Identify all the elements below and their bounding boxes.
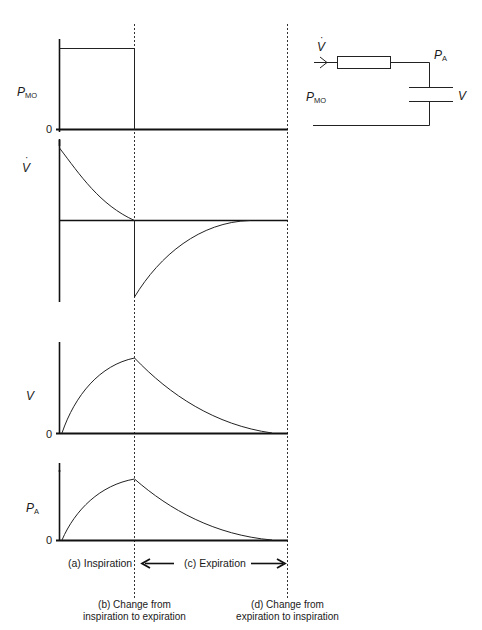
volume-label: V xyxy=(26,389,35,403)
flow-label-dot: · xyxy=(25,152,28,163)
label-b-line1: (b) Change from xyxy=(98,599,171,610)
label-inspiration: (a) Inspiration xyxy=(68,557,132,569)
panel-pmo: PMO 0 xyxy=(17,39,288,146)
flow-expiration-curve xyxy=(135,221,251,298)
respiration-diagram: PMO 0 V · V 0 PA 0 (a) Inspiration (c) E… xyxy=(0,0,482,630)
pmo-label: PMO xyxy=(17,85,37,100)
label-expiration: (c) Expiration xyxy=(184,557,246,569)
pmo-curve xyxy=(60,49,135,130)
resistor xyxy=(338,57,391,69)
panel-flow: V · xyxy=(22,140,288,302)
pa-curve xyxy=(62,479,272,540)
flow-label: V xyxy=(22,161,31,175)
circuit-diagram: V · PA PMO V xyxy=(306,32,467,126)
label-d-line1: (d) Change from xyxy=(251,599,324,610)
circuit-v-label: V xyxy=(458,89,467,103)
annotations: (a) Inspiration (c) Expiration (b) Chang… xyxy=(68,557,339,622)
circuit-bottom-wire xyxy=(313,102,430,126)
panel-volume: V 0 xyxy=(26,342,288,472)
label-b-line2: inspiration to expiration xyxy=(83,611,186,622)
panel-pa: PA 0 xyxy=(26,470,288,546)
label-d-line2: expiration to inspiration xyxy=(236,611,339,622)
circuit-pa-label: PA xyxy=(434,48,447,63)
volume-zero-label: 0 xyxy=(46,428,52,440)
circuit-flow-dot: · xyxy=(320,32,323,43)
flow-inspiration-curve xyxy=(60,148,135,221)
pmo-zero-label: 0 xyxy=(46,123,52,135)
volume-curve xyxy=(62,358,272,433)
circuit-pmo-label: PMO xyxy=(306,90,326,105)
circuit-top-wire xyxy=(391,63,430,88)
pa-zero-label: 0 xyxy=(46,534,52,546)
pa-label: PA xyxy=(26,501,39,516)
